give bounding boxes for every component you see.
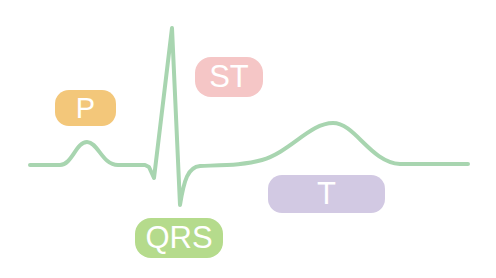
ecg-diagram: P ST QRS T <box>0 0 496 278</box>
ecg-trace <box>0 0 496 278</box>
st-segment-label: ST <box>209 59 249 95</box>
t-wave-badge: T <box>268 175 385 213</box>
t-wave-label: T <box>317 176 336 212</box>
p-wave-badge: P <box>55 90 116 126</box>
st-segment-badge: ST <box>195 57 263 97</box>
qrs-complex-badge: QRS <box>135 218 223 258</box>
qrs-complex-label: QRS <box>145 220 212 256</box>
p-wave-label: P <box>76 92 95 125</box>
